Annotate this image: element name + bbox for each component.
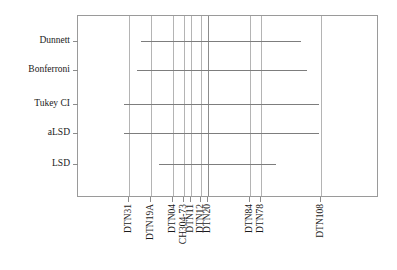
- x-tick-ch304-73: [183, 197, 184, 202]
- interval-line-tukey-ci: [124, 104, 319, 105]
- y-tick-alsd: [73, 133, 78, 134]
- y-tick-bonferroni: [73, 70, 78, 71]
- gridline-dtn108: [321, 16, 322, 196]
- x-tick-dtn78: [260, 197, 261, 202]
- interval-line-dunnett: [141, 41, 301, 42]
- x-tick-dtn84: [249, 197, 250, 202]
- gridline-ch304-73: [184, 16, 185, 196]
- x-tick-dtn04: [172, 197, 173, 202]
- y-axis-label: LSD: [52, 158, 70, 168]
- y-axis-label: Bonferroni: [28, 64, 70, 74]
- x-tick-dtn31: [128, 197, 129, 202]
- gridline-dtn84: [250, 16, 251, 196]
- x-tick-dtn12: [200, 197, 201, 202]
- x-tick-dtn19a: [150, 197, 151, 202]
- x-axis-ticks: [77, 197, 378, 203]
- y-axis-label: Dunnett: [39, 35, 70, 45]
- interval-line-lsd: [159, 164, 276, 165]
- x-axis-label: DTN84: [244, 204, 254, 233]
- gridline-dtn12: [201, 16, 202, 196]
- x-axis-label: DTN78: [255, 204, 265, 233]
- y-axis-labels: DunnettBonferroniTukey CIaLSDLSD: [0, 15, 70, 197]
- plot-area: [77, 15, 378, 197]
- x-axis-label: DTN11: [185, 204, 195, 233]
- gridline-dtn19a: [151, 16, 152, 196]
- x-axis-label: DTN108: [315, 204, 325, 238]
- x-axis-label: DTN04: [167, 204, 177, 233]
- interval-line-alsd: [124, 133, 319, 134]
- x-tick-dtn108: [320, 197, 321, 202]
- x-tick-dtn11: [190, 197, 191, 202]
- comparison-interval-chart: DunnettBonferroniTukey CIaLSDLSD DTN31DT…: [0, 0, 397, 270]
- gridline-dtn31: [129, 16, 130, 196]
- y-tick-lsd: [73, 164, 78, 165]
- x-axis-label: DTN19A: [145, 204, 155, 240]
- x-axis-labels: DTN31DTN19ADTN04CH304-73DTN11DTN12DTN20D…: [77, 204, 378, 270]
- gridline-dtn11: [191, 16, 192, 196]
- y-tick-tukey-ci: [73, 104, 78, 105]
- gridline-dtn78: [261, 16, 262, 196]
- gridline-dtn20: [208, 16, 209, 196]
- y-tick-dunnett: [73, 41, 78, 42]
- interval-line-bonferroni: [137, 70, 307, 71]
- x-axis-label: DTN31: [123, 204, 133, 233]
- gridline-dtn04: [173, 16, 174, 196]
- y-axis-label: aLSD: [48, 127, 70, 137]
- x-axis-label: DTN20: [202, 204, 212, 233]
- x-tick-dtn20: [207, 197, 208, 202]
- y-axis-label: Tukey CI: [34, 98, 70, 108]
